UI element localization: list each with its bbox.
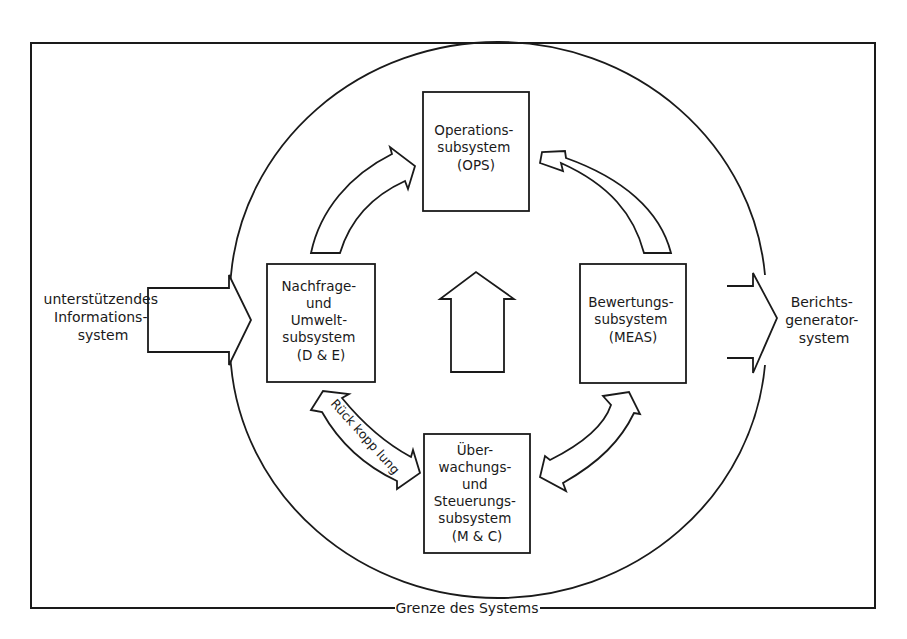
feedback-double-arrow: Rück kopp lung xyxy=(311,391,420,489)
meas-subsystem-box: Bewertungs- subsystem (MEAS) xyxy=(580,264,686,383)
de-label-line: und xyxy=(306,295,332,311)
de-label-line: (D & E) xyxy=(297,347,346,363)
mc-subsystem-box: Über- wachungs- und Steuerungs- subsyste… xyxy=(424,434,530,553)
system-boundary-label: Grenze des Systems xyxy=(396,600,539,616)
ops-label-line: Operations- xyxy=(434,122,513,138)
mc-label-line: (M & C) xyxy=(452,528,503,544)
input-label-line: Informations- xyxy=(54,309,147,325)
output-system-label: Berichts- generator- system xyxy=(785,294,863,346)
mc-label-line: Über- xyxy=(457,441,493,458)
curved-arrow-meas-to-ops xyxy=(540,151,671,253)
curved-double-arrow-meas-mc xyxy=(540,392,640,491)
ops-subsystem-box: Operations- subsystem (OPS) xyxy=(423,92,529,211)
ops-label-line: subsystem xyxy=(437,139,510,155)
ops-label-line: (OPS) xyxy=(457,157,495,173)
output-label-line: Berichts- xyxy=(791,294,853,310)
meas-label-line: Bewertungs- xyxy=(588,294,673,310)
de-label-line: subsystem xyxy=(282,329,355,345)
mc-label-line: wachungs- xyxy=(438,459,511,475)
output-label-line: generator- xyxy=(785,312,858,328)
output-arrow xyxy=(727,273,777,373)
de-label-line: Nachfrage- xyxy=(282,278,357,294)
input-label-line: unterstützendes xyxy=(44,291,158,307)
system-diagram: Grenze des Systems unterstützendes Infor… xyxy=(0,0,907,639)
central-up-arrow xyxy=(440,272,514,372)
input-arrow xyxy=(148,275,251,365)
mc-label-line: Steuerungs- xyxy=(434,493,516,509)
input-label-line: system xyxy=(78,327,129,343)
curved-arrow-de-to-ops xyxy=(311,147,415,253)
de-subsystem-box: Nachfrage- und Umwelt- subsystem (D & E) xyxy=(267,264,375,382)
meas-label-line: (MEAS) xyxy=(609,329,658,345)
input-system-label: unterstützendes Informations- system xyxy=(44,291,163,343)
mc-label-line: subsystem xyxy=(438,510,511,526)
output-label-line: system xyxy=(799,330,850,346)
de-label-line: Umwelt- xyxy=(291,312,347,328)
meas-label-line: subsystem xyxy=(594,311,667,327)
mc-label-line: und xyxy=(462,476,488,492)
